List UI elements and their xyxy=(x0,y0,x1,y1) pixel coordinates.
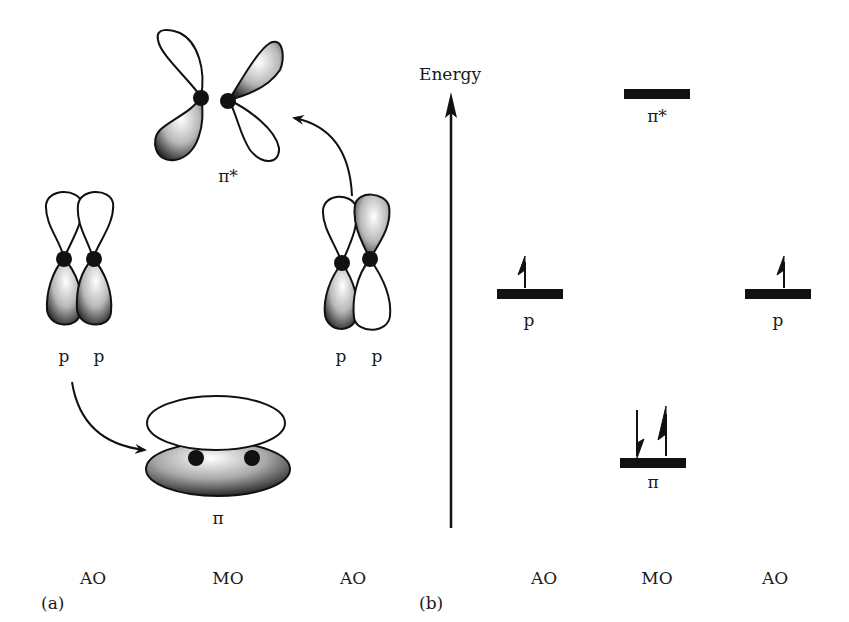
pi-orbital xyxy=(146,396,290,496)
pi-level-label: π xyxy=(647,474,658,491)
left-p-label-2: p xyxy=(94,348,105,365)
column-ao-right-b: AO xyxy=(762,570,788,587)
panel-b-label: (b) xyxy=(419,595,443,612)
right-p-label-2: p xyxy=(372,348,383,365)
column-ao-left-a: AO xyxy=(80,570,106,587)
column-ao-right-a: AO xyxy=(340,570,366,587)
pi-star-level-label: π* xyxy=(647,108,667,125)
orbital-diagram-figure xyxy=(0,0,849,622)
p-left-level-label: p xyxy=(524,312,535,329)
left-p-label-1: p xyxy=(59,348,70,365)
pi-star-orbital xyxy=(155,30,283,161)
column-mo-a: MO xyxy=(212,570,243,587)
electron-arrows xyxy=(518,256,784,458)
right-p-label-1: p xyxy=(336,348,347,365)
arrow-to-pi xyxy=(72,382,145,450)
arrow-to-pi-star xyxy=(294,118,352,196)
pi-label-a: π xyxy=(212,510,223,527)
p-right-level-label: p xyxy=(773,312,784,329)
column-ao-left-b: AO xyxy=(531,570,557,587)
energy-axis-label: Energy xyxy=(419,66,481,83)
pi-star-label-a: π* xyxy=(218,168,238,185)
p-right-level xyxy=(745,289,811,299)
left-p-orbitals xyxy=(46,192,113,325)
pi-level xyxy=(620,458,686,468)
column-mo-b: MO xyxy=(641,570,672,587)
p-left-level xyxy=(497,289,563,299)
pi-star-level xyxy=(624,89,690,99)
panel-a-label: (a) xyxy=(41,595,64,612)
right-p-orbitals xyxy=(323,195,390,330)
energy-axis xyxy=(445,92,457,528)
